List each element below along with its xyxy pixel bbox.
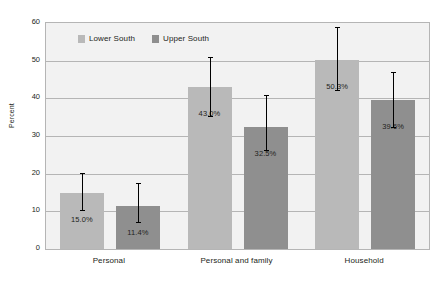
- bar-value-label-0-0: 15.0%: [71, 215, 93, 224]
- legend-label: Upper South: [163, 34, 209, 43]
- error-bar-1-0: [210, 57, 211, 117]
- error-bar-0-1: [138, 183, 139, 223]
- y-axis-tick-labels: 0102030405060: [14, 0, 40, 285]
- x-axis-label-0: Personal: [93, 256, 125, 265]
- x-axis-label-2: Household: [345, 256, 384, 265]
- x-axis-label-1: Personal and family: [200, 256, 272, 265]
- error-cap-top: [391, 72, 396, 73]
- y-axis-tick-10: 10: [14, 206, 40, 214]
- y-axis-tick-50: 50: [14, 56, 40, 64]
- y-axis-tick-0: 0: [14, 244, 40, 252]
- error-cap-bottom: [136, 222, 141, 223]
- legend-swatch-icon: [152, 35, 159, 43]
- error-bar-0-0: [82, 173, 83, 211]
- error-cap-bottom: [208, 116, 213, 117]
- error-cap-top: [80, 173, 85, 174]
- error-cap-bottom: [391, 127, 396, 128]
- legend-item-0: Lower South: [78, 34, 135, 43]
- error-cap-top: [335, 27, 340, 28]
- error-bar-1-1: [266, 95, 267, 152]
- chart-legend: Lower SouthUpper South: [78, 34, 209, 43]
- error-cap-bottom: [335, 90, 340, 91]
- error-cap-top: [264, 95, 269, 96]
- legend-label: Lower South: [89, 34, 135, 43]
- error-cap-top: [136, 183, 141, 184]
- y-axis-tick-40: 40: [14, 93, 40, 101]
- error-cap-top: [208, 57, 213, 58]
- error-bar-2-0: [337, 27, 338, 91]
- error-cap-bottom: [80, 210, 85, 211]
- y-axis-tick-30: 30: [14, 131, 40, 139]
- gridline-50: [46, 61, 429, 62]
- bar-value-label-0-1: 11.4%: [127, 228, 148, 237]
- error-bar-2-1: [393, 72, 394, 129]
- y-axis-tick-60: 60: [14, 18, 40, 26]
- legend-item-1: Upper South: [152, 34, 209, 43]
- error-cap-bottom: [264, 150, 269, 151]
- legend-swatch-icon: [78, 35, 85, 43]
- y-axis-tick-20: 20: [14, 169, 40, 177]
- bar-chart-figure: Percent 0102030405060 Lower SouthUpper S…: [0, 0, 437, 285]
- plot-area: Lower SouthUpper South 15.0%11.4%43.0%32…: [45, 22, 430, 250]
